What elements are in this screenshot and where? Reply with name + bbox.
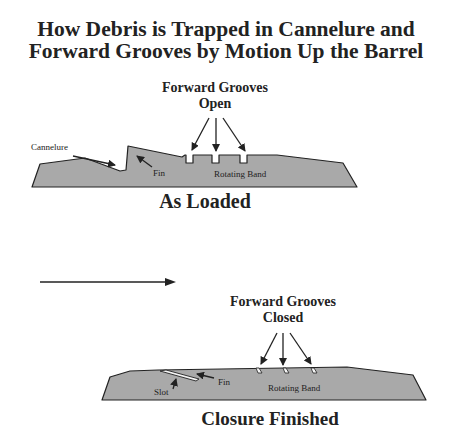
groove-arrow-3 xyxy=(223,118,245,151)
closed-groove-arrow-3 xyxy=(290,333,311,364)
projectile-as-loaded xyxy=(32,146,357,187)
closed-groove-arrow-1 xyxy=(261,333,277,364)
closure-finished-caption: Closure Finished xyxy=(160,408,380,430)
forward-grooves-open-label: Forward Grooves Open xyxy=(140,80,290,112)
fin-label-top: Fin xyxy=(153,168,165,178)
fin-label-bottom: Fin xyxy=(218,377,230,387)
slot-label: Slot xyxy=(154,387,169,397)
groove-arrow-1 xyxy=(192,118,209,150)
forward-grooves-closed-label: Forward Grooves Closed xyxy=(208,294,358,326)
cannelure-label: Cannelure xyxy=(31,142,68,152)
as-loaded-caption: As Loaded xyxy=(100,190,310,212)
rotating-band-label-bottom: Rotating Band xyxy=(268,383,320,393)
projectile-closure-finished xyxy=(102,367,426,400)
motion-up-barrel-arrow xyxy=(40,278,176,286)
rotating-band-label-top: Rotating Band xyxy=(214,169,266,179)
